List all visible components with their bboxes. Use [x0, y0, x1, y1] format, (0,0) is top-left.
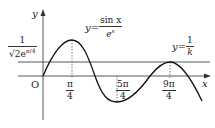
x-tick-numerator: π — [66, 80, 74, 89]
y-axis-label: y — [32, 9, 38, 19]
x-tick-9pi-over-4: 9π 4 — [162, 80, 176, 101]
curve-label-exponent: x — [112, 27, 115, 34]
x-axis-label: x — [202, 79, 208, 89]
x-tick-pi-over-4: π 4 — [66, 80, 74, 101]
curve-label-lhs: y= — [85, 22, 99, 33]
y-tick-numerator: 1 — [18, 36, 26, 45]
line-label-numerator: 1 — [186, 36, 194, 45]
x-tick-denominator: 4 — [66, 92, 74, 101]
curve-label-numerator: sin x — [99, 16, 122, 25]
y-tick-exponent: π/4 — [26, 47, 36, 54]
origin-label: O — [31, 80, 39, 90]
curve-label: y= sin x ex — [85, 16, 122, 39]
y-tick-max-value: 1 √2eπ/4 — [8, 36, 37, 59]
x-tick-denominator: 4 — [165, 92, 173, 101]
x-tick-denominator: 4 — [119, 92, 127, 101]
x-tick-5pi-over-4: 5π 4 — [116, 80, 130, 101]
line-label-lhs: y= — [172, 41, 186, 52]
x-tick-numerator: 5π — [116, 80, 130, 89]
y-axis-arrow-icon — [41, 9, 46, 16]
x-tick-numerator: 9π — [162, 80, 176, 89]
line-label: y= 1 k — [172, 36, 194, 57]
line-label-denominator: k — [186, 48, 193, 57]
y-tick-denominator: √2e — [9, 49, 26, 59]
